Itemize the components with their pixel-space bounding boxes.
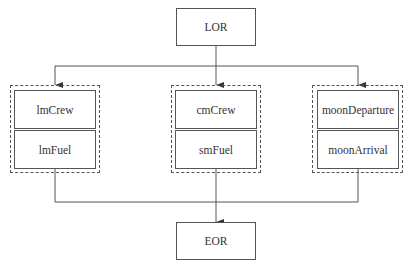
node-lmfuel-label: lmFuel (39, 144, 72, 156)
node-cmcrew: cmCrew (175, 90, 257, 129)
node-smfuel: smFuel (175, 130, 257, 169)
node-smfuel-label: smFuel (199, 144, 233, 156)
node-moondeparture-label: moonDeparture (322, 104, 394, 116)
node-moonarrival-label: moonArrival (328, 144, 387, 156)
node-lmcrew-label: lmCrew (36, 104, 73, 116)
node-lmcrew: lmCrew (14, 90, 96, 129)
node-eor: EOR (176, 222, 256, 260)
node-eor-label: EOR (205, 235, 228, 247)
node-moonarrival: moonArrival (317, 130, 399, 169)
node-lor-label: LOR (205, 21, 228, 33)
node-lmfuel: lmFuel (14, 130, 96, 169)
node-cmcrew-label: cmCrew (197, 104, 236, 116)
node-moondeparture: moonDeparture (317, 90, 399, 129)
node-lor: LOR (176, 8, 256, 46)
